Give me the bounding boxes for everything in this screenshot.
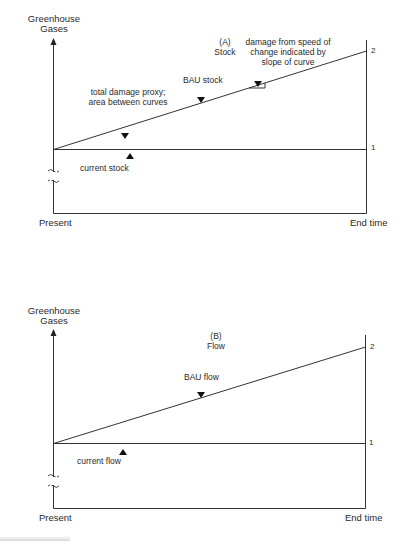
y-axis-label-line: Gases	[26, 316, 82, 326]
panel-a-area-marker-icon	[121, 133, 129, 139]
clipped-caption-edge	[0, 536, 70, 541]
panel-b-current-label: current flow	[77, 456, 121, 466]
panel-title-line: Flow	[201, 341, 231, 351]
note-line: damage from speed of	[228, 37, 348, 47]
panel-a-level-2: 2	[371, 46, 375, 56]
panel-b-title: (B) Flow	[201, 331, 231, 351]
panel-b-end-time-label: End time	[345, 513, 383, 523]
panel-b-y-axis-arrow-icon	[51, 329, 57, 336]
panel-b-level-2: 2	[370, 342, 374, 352]
panel-a-y-axis-label: Greenhouse Gases	[26, 14, 82, 34]
panel-a-slope-note: damage from speed of change indicated by…	[228, 37, 348, 67]
panel-b-current-marker-icon	[119, 449, 127, 455]
panel-a-present-label: Present	[39, 218, 72, 228]
panel-b-bau-label: BAU flow	[184, 372, 219, 382]
y-axis-label-line: Gases	[26, 24, 82, 34]
panel-a-level-1: 1	[371, 143, 375, 153]
note-line: change indicated by	[228, 47, 348, 57]
panel-a-bau-label: BAU stock	[183, 75, 223, 85]
note-line: total damage proxy;	[88, 87, 168, 97]
panel-a-current-label: current stock	[80, 163, 129, 173]
panel-b-lines	[54, 335, 366, 509]
panel-a-area-note: total damage proxy; area between curves	[88, 87, 168, 107]
panel-a-end-time-label: End time	[350, 218, 388, 228]
note-line: slope of curve	[228, 57, 348, 67]
panel-b-y-axis-label: Greenhouse Gases	[26, 306, 82, 326]
panel-title-line: (B)	[201, 331, 231, 341]
note-line: area between curves	[88, 97, 168, 107]
panel-b-level-1: 1	[369, 438, 373, 448]
panel-b-present-label: Present	[39, 513, 72, 523]
panel-a-y-axis-arrow-icon	[51, 38, 57, 45]
panel-b-bau-flow-line	[54, 347, 366, 444]
panel-a-current-marker-icon	[126, 153, 134, 159]
